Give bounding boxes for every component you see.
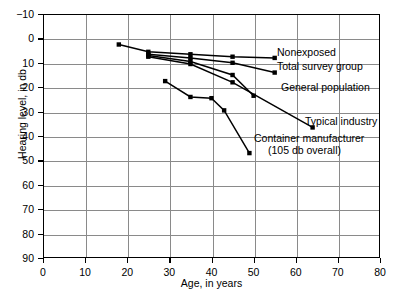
series-label-text: Typical industry [305,115,377,127]
y-tick-mark [38,234,43,235]
y-tick-label: 50 [0,155,34,166]
series-label-text: Nonexposed [277,46,336,58]
x-tick-label: 0 [23,267,63,278]
x-tick-label: 60 [276,267,316,278]
gridline-horizontal [44,235,379,236]
y-tick-mark [38,136,43,137]
x-tick-mark [169,258,170,263]
series-label-general-population: General population [281,81,370,93]
x-tick-label: 50 [234,267,274,278]
y-tick-mark [38,38,43,39]
x-tick-mark [296,258,297,263]
x-tick-mark [254,258,255,263]
series-label-nonexposed: Nonexposed [277,46,336,58]
y-tick-label: 60 [0,180,34,191]
x-tick-label: 40 [192,267,232,278]
series-label-text: General population [281,81,370,93]
x-tick-label: 10 [65,267,105,278]
series-label-text: Container manufacturer [254,132,364,144]
hearing-level-chart: Hearing level, in db Age, in years −1001… [0,0,397,293]
series-label-total-survey-group: Total survey group [277,60,363,72]
gridline-vertical [170,15,171,257]
y-tick-mark [38,209,43,210]
y-tick-label: 20 [0,82,34,93]
y-tick-label: 70 [0,204,34,215]
gridline-vertical [128,15,129,257]
gridline-horizontal [44,210,379,211]
series-label-typical-industry: Typical industry [305,115,377,127]
series-label-container-manufacturer: Container manufacturer(105 db overall) [254,132,364,156]
y-tick-mark [38,14,43,15]
x-tick-mark [43,258,44,263]
x-tick-mark [380,258,381,263]
x-tick-mark [85,258,86,263]
x-tick-label: 70 [318,267,358,278]
y-tick-label: 10 [0,58,34,69]
gridline-vertical [86,15,87,257]
x-tick-mark [127,258,128,263]
gridline-vertical [213,15,214,257]
y-tick-label: 30 [0,107,34,118]
x-axis-title: Age, in years [43,277,380,289]
y-tick-mark [38,63,43,64]
y-tick-label: 40 [0,131,34,142]
gridline-horizontal [44,113,379,114]
series-label-subtext: (105 db overall) [268,144,364,156]
x-tick-mark [338,258,339,263]
series-label-text: Total survey group [277,60,363,72]
gridline-horizontal [44,161,379,162]
y-tick-mark [38,160,43,161]
y-tick-label: 80 [0,229,34,240]
x-tick-label: 20 [107,267,147,278]
gridline-horizontal [44,39,379,40]
x-tick-label: 30 [149,267,189,278]
y-tick-label: 0 [0,33,34,44]
y-tick-label: 90 [0,253,34,264]
x-tick-mark [212,258,213,263]
y-tick-mark [38,87,43,88]
gridline-horizontal [44,186,379,187]
y-tick-mark [38,112,43,113]
y-tick-mark [38,185,43,186]
x-tick-label: 80 [360,267,397,278]
y-tick-label: −10 [0,9,34,20]
